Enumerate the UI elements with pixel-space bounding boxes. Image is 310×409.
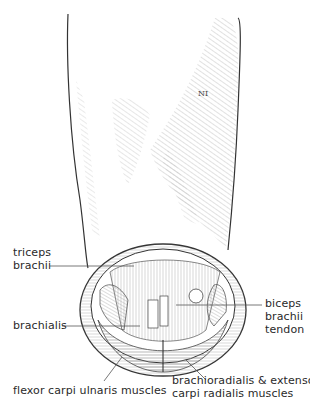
label-line: carpi radialis muscles: [172, 387, 310, 400]
label-line: brachii: [265, 310, 304, 323]
label-line: brachii: [13, 259, 51, 272]
cross-section: [80, 244, 246, 376]
label-flexor-carpi-ulnaris: flexor carpi ulnaris muscles: [13, 384, 167, 397]
svg-text:NI: NI: [198, 89, 208, 98]
label-line: brachioradialis & extensor: [172, 374, 310, 387]
label-line: biceps: [265, 297, 304, 310]
label-line: flexor carpi ulnaris muscles: [13, 384, 167, 397]
arm-illustration: NI: [0, 0, 310, 409]
label-line: tendon: [265, 323, 304, 336]
arm-shading: NI: [76, 18, 238, 248]
label-line: triceps: [13, 246, 51, 259]
label-biceps-brachii-tendon: biceps brachii tendon: [265, 297, 304, 336]
label-brachialis: brachialis: [13, 319, 67, 332]
label-triceps-brachii: triceps brachii: [13, 246, 51, 272]
label-line: brachialis: [13, 319, 67, 332]
label-brachioradialis-extensor: brachioradialis & extensor carpi radiali…: [172, 374, 310, 400]
